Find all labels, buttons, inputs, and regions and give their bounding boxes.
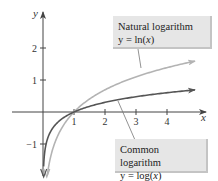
natural-log-title: Natural logarithm [118,20,205,33]
common-log-equation: y = log(x) [120,169,201,181]
x-axis-label: x [200,111,206,123]
y-axis-label: y [32,7,38,19]
common-log-callout: Common logarithm y = log(x) [115,139,208,173]
common-log-pointer [118,101,135,140]
natural-log-callout: Natural logarithm y = ln(x) [113,16,212,49]
y-tick-label: 1 [32,75,37,86]
common-log-title: Common logarithm [120,143,201,169]
x-tick-label: 1 [72,116,77,127]
ticks: 1234−112 [26,43,169,150]
y-tick-label: 2 [32,43,37,54]
natural-log-pointer [138,49,141,68]
x-tick-label: 3 [134,116,139,127]
x-tick-label: 4 [165,116,170,127]
x-tick-label: 2 [103,116,108,127]
natural-log-equation: y = ln(x) [118,33,205,46]
y-tick-label: −1 [26,139,37,150]
